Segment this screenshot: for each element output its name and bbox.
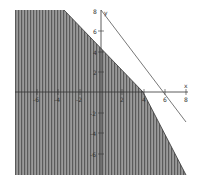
y-tick-label: -4 <box>90 130 96 137</box>
x-tick-label: 6 <box>163 96 167 103</box>
x-tick-label: -6 <box>33 96 39 103</box>
y-tick-label: -2 <box>90 110 96 117</box>
inequality-graph: -6 -4 -2 2 4 6 8 8 6 4 2 -2 -4 -6 x y <box>0 0 199 186</box>
y-tick-label: 2 <box>93 69 97 76</box>
x-tick-label: -4 <box>54 96 60 103</box>
y-tick-label: 8 <box>93 8 97 15</box>
y-tick-label: 6 <box>93 28 97 35</box>
x-tick-label: 2 <box>120 96 124 103</box>
y-tick-label: 4 <box>93 49 97 56</box>
x-axis-label: x <box>184 82 188 89</box>
y-axis-label: y <box>104 9 108 17</box>
shaded-region <box>15 10 186 175</box>
x-tick-label: 8 <box>184 96 188 103</box>
x-tick-label: 4 <box>142 96 146 103</box>
y-tick-label: -6 <box>90 151 96 158</box>
x-tick-label: -2 <box>76 96 82 103</box>
